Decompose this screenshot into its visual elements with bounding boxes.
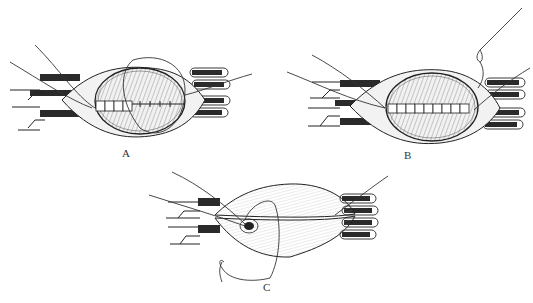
panel-label-b: B [404, 149, 411, 161]
muscle-lobe-upper-c [215, 184, 355, 217]
muscle-lobe-lower-c [215, 216, 355, 257]
tendon-strands-left-c [166, 198, 220, 244]
tendon-strands-right-c [340, 194, 378, 239]
panel-b [287, 8, 530, 144]
panel-a [10, 45, 252, 137]
needle [480, 8, 522, 50]
panel-label-a: A [122, 147, 130, 159]
panel-label-c: C [263, 281, 270, 293]
illustration-svg [0, 0, 533, 303]
panel-c [149, 172, 388, 282]
figure: A B C [0, 0, 533, 303]
knot-c [244, 222, 254, 230]
suture-row-b [388, 104, 469, 113]
